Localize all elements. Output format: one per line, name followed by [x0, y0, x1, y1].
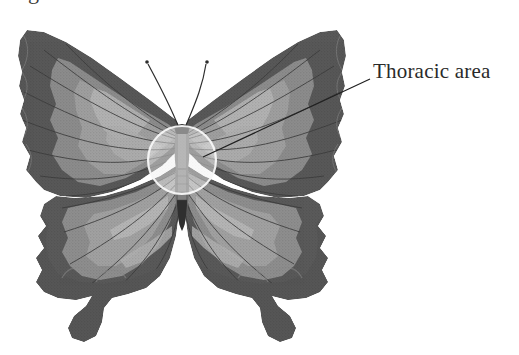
- thoracic-area-highlight-circle: [148, 126, 216, 194]
- butterfly-illustration: [0, 0, 519, 355]
- left-antenna-club: [145, 60, 149, 64]
- right-antenna-club: [205, 60, 209, 64]
- thoracic-area-label: Thoracic area: [373, 58, 490, 84]
- cut-off-caption-fragment: g: [28, 0, 39, 5]
- butterfly-figure: [0, 0, 519, 355]
